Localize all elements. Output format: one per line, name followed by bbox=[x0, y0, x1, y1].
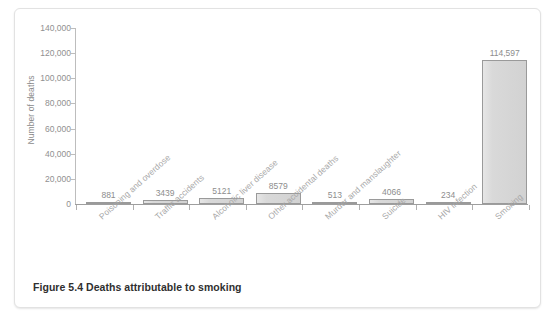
x-tick-mark bbox=[359, 205, 360, 210]
bar-series: 8813439512185795134066234114,597 bbox=[15, 9, 540, 205]
figure-caption: Figure 5.4 Deaths attributable to smokin… bbox=[33, 281, 242, 293]
x-tick-mark bbox=[472, 205, 473, 210]
x-tick-mark bbox=[416, 205, 417, 210]
figure-panel: Number of deaths 020,00040,00060,00080,0… bbox=[14, 8, 541, 308]
x-tick-mark bbox=[246, 205, 247, 210]
bar-value-label: 4066 bbox=[382, 187, 401, 197]
bar-value-label: 8579 bbox=[269, 181, 288, 191]
bar bbox=[482, 60, 527, 204]
chart-plot-area: Number of deaths 020,00040,00060,00080,0… bbox=[15, 9, 540, 271]
bar-value-label: 114,597 bbox=[490, 48, 520, 58]
x-tick-mark bbox=[133, 205, 134, 210]
x-tick-mark bbox=[189, 205, 190, 210]
bar-value-label: 5121 bbox=[212, 186, 231, 196]
x-tick-mark bbox=[302, 205, 303, 210]
x-tick-mark bbox=[76, 205, 77, 210]
x-tick-mark bbox=[529, 205, 530, 210]
